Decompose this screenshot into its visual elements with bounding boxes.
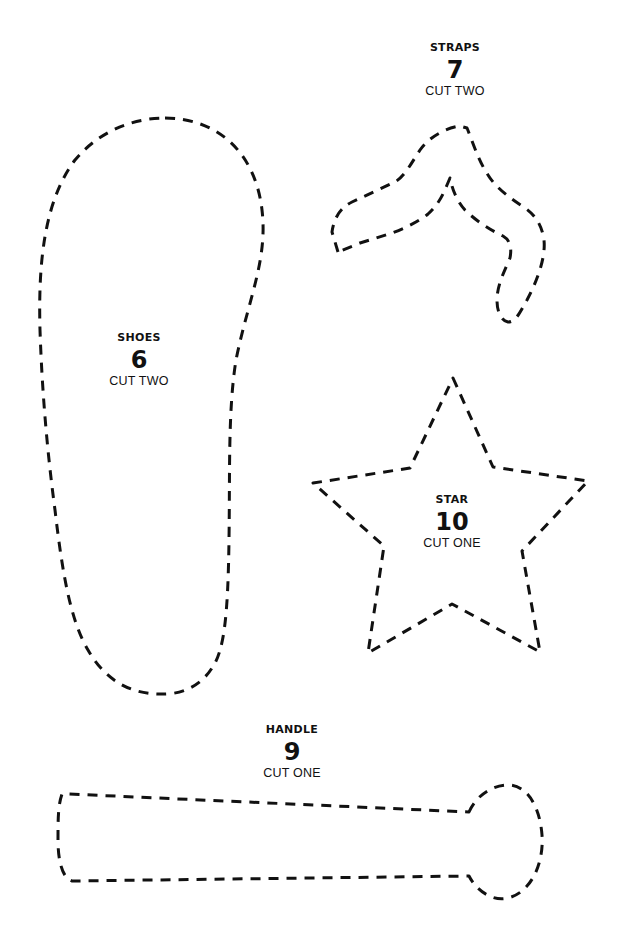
shoes-cut-outline xyxy=(40,118,263,694)
piece-name: STRAPS xyxy=(425,42,484,53)
piece-number: 9 xyxy=(263,740,320,764)
handle-label: HANDLE 9 CUT ONE xyxy=(263,724,320,780)
piece-name: HANDLE xyxy=(263,724,320,735)
piece-quantity: CUT ONE xyxy=(423,537,480,550)
star-label: STAR 10 CUT ONE xyxy=(423,494,480,550)
piece-quantity: CUT TWO xyxy=(425,85,484,98)
piece-name: SHOES xyxy=(109,332,168,343)
piece-number: 6 xyxy=(109,348,168,372)
straps-cut-outline xyxy=(332,126,544,322)
straps-label: STRAPS 7 CUT TWO xyxy=(425,42,484,98)
piece-quantity: CUT TWO xyxy=(109,375,168,388)
pattern-sheet xyxy=(0,0,628,940)
piece-number: 10 xyxy=(423,510,480,534)
shoes-label: SHOES 6 CUT TWO xyxy=(109,332,168,388)
piece-name: STAR xyxy=(423,494,480,505)
piece-quantity: CUT ONE xyxy=(263,767,320,780)
handle-cut-outline xyxy=(58,785,542,899)
piece-number: 7 xyxy=(425,58,484,82)
